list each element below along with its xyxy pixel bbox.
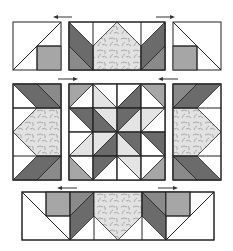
arrow-right-icon (158, 186, 178, 190)
arrow-left-icon (53, 15, 72, 19)
arrow-left-icon (57, 186, 77, 190)
quilt-assembly-diagram (0, 0, 233, 251)
side-unit-left (13, 84, 61, 180)
arrow-right-icon (156, 15, 175, 19)
side-unit-top (69, 22, 165, 70)
arrow-right-icon (58, 77, 78, 81)
corner-unit-top-left (13, 22, 61, 70)
bottom-border-unit (22, 192, 214, 240)
arrow-left-icon (158, 77, 178, 81)
center-star-block (69, 84, 165, 180)
side-unit-right (173, 84, 221, 180)
corner-unit-top-right (173, 22, 221, 70)
